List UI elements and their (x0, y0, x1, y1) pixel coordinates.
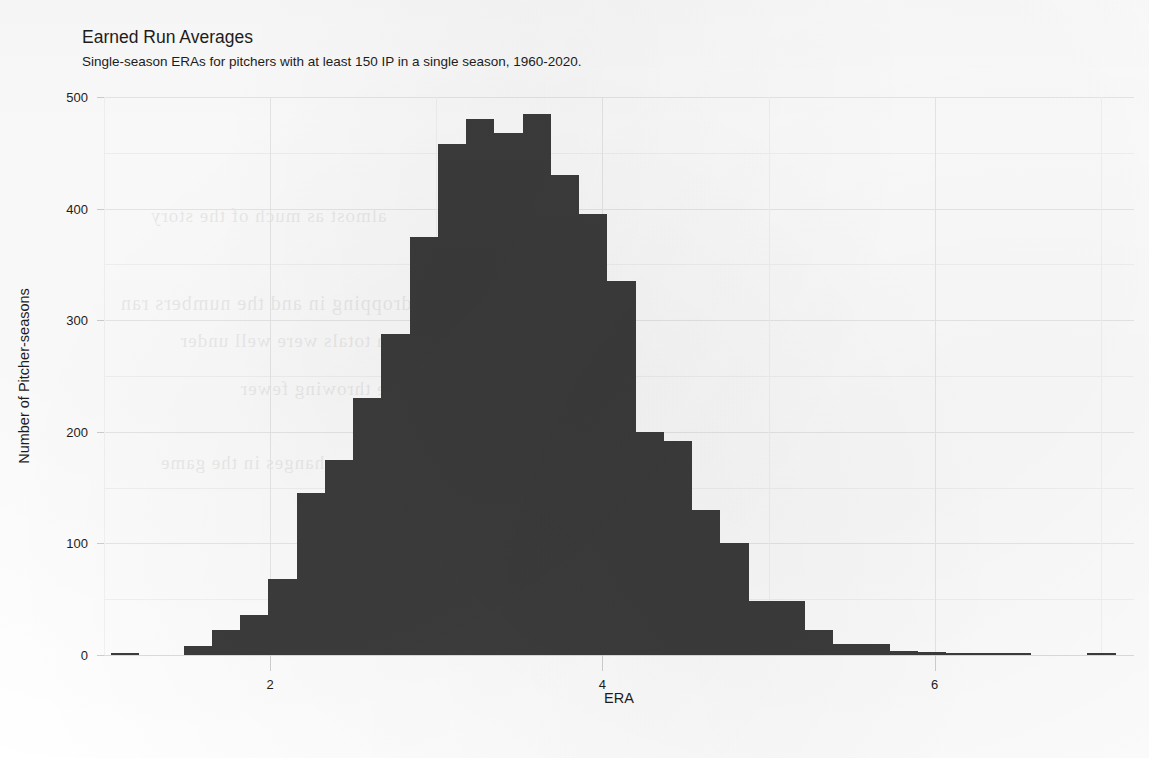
histogram-bar (805, 630, 833, 655)
y-axis-tick-label: 200 (66, 424, 88, 439)
histogram-bar (833, 644, 861, 655)
y-axis-tick-mark (97, 655, 104, 656)
histogram-bar (381, 334, 409, 655)
x-axis-tick-mark (935, 655, 936, 671)
histogram-bar (862, 644, 890, 655)
histogram-bar (268, 579, 296, 655)
chart-subtitle: Single-season ERAs for pitchers with at … (82, 52, 582, 72)
histogram-bar (636, 432, 664, 655)
y-axis-tick-label: 100 (66, 536, 88, 551)
histogram-bar (579, 214, 607, 655)
histogram-bar (212, 630, 240, 655)
y-axis: 0100200300400500 (0, 97, 104, 655)
y-axis-tick-mark (97, 209, 104, 210)
histogram-bar (240, 615, 268, 655)
histogram-bar (494, 133, 522, 655)
y-axis-tick-label: 400 (66, 201, 88, 216)
title-block: Earned Run Averages Single-season ERAs f… (82, 26, 582, 72)
histogram-bar (777, 601, 805, 655)
histogram-bar (438, 144, 466, 655)
x-axis-tick-mark (602, 655, 603, 671)
histogram-bar (523, 114, 551, 655)
y-axis-tick-mark (97, 320, 104, 321)
y-axis-tick-mark (97, 543, 104, 544)
histogram-bar (410, 237, 438, 656)
histogram-bar (692, 510, 720, 655)
histogram-bar (184, 646, 212, 655)
plot-area (104, 97, 1134, 655)
histogram-bar (551, 175, 579, 655)
x-axis-tick-mark (270, 655, 271, 671)
histogram-bars (104, 97, 1134, 655)
y-axis-tick-mark (97, 97, 104, 98)
histogram-bar (607, 281, 635, 655)
x-axis: 246 (104, 655, 1134, 715)
histogram-bar (749, 601, 777, 655)
histogram-bar (325, 460, 353, 655)
y-axis-tick-label: 0 (81, 648, 88, 663)
histogram-bar (466, 119, 494, 655)
y-axis-tick-mark (97, 432, 104, 433)
histogram-bar (664, 441, 692, 655)
page-title: Earned Run Averages (82, 26, 582, 48)
histogram-bar (297, 493, 325, 655)
histogram-bar (353, 398, 381, 655)
y-axis-tick-label: 500 (66, 90, 88, 105)
x-axis-title: ERA (104, 690, 1134, 706)
y-axis-tick-label: 300 (66, 313, 88, 328)
histogram-bar (720, 543, 748, 655)
